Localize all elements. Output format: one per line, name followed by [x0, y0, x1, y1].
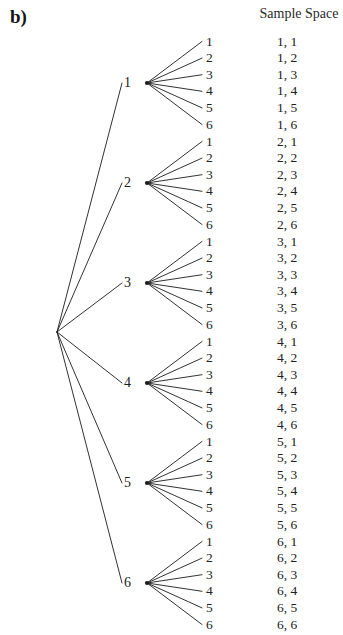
outcome-label-3-2: 3, 2	[277, 251, 297, 265]
leaf-label-3-3: 3	[206, 268, 220, 282]
leaf-label-4-3: 3	[206, 368, 220, 382]
leaf-label-1-6: 6	[206, 118, 220, 132]
branch-node-6	[145, 581, 149, 585]
leaf-label-5-4: 4	[206, 484, 220, 498]
leaf-label-1-5: 5	[206, 101, 220, 115]
outcome-label-3-3: 3, 3	[277, 268, 297, 282]
outcome-label-1-1: 1, 1	[277, 35, 297, 49]
outcome-label-6-3: 6, 3	[277, 568, 297, 582]
leaf-label-3-1: 1	[206, 235, 220, 249]
leaf-label-5-1: 1	[206, 435, 220, 449]
branch-node-3	[145, 281, 149, 285]
stage-label-3: 3	[117, 276, 131, 290]
outcome-label-5-4: 5, 4	[277, 484, 297, 498]
leaf-label-6-5: 5	[206, 601, 220, 615]
leaf-label-4-4: 4	[206, 384, 220, 398]
trunk-line-4	[57, 332, 122, 383]
outcome-label-4-5: 4, 5	[277, 401, 297, 415]
leaf-label-6-2: 2	[206, 551, 220, 565]
outcome-label-3-5: 3, 5	[277, 301, 297, 315]
leaf-label-6-6: 6	[206, 618, 220, 632]
leaf-label-1-3: 3	[206, 68, 220, 82]
outcome-label-4-6: 4, 6	[277, 418, 297, 432]
leaf-label-1-4: 4	[206, 84, 220, 98]
leaf-label-2-6: 6	[206, 218, 220, 232]
leaf-label-6-4: 4	[206, 584, 220, 598]
outcome-label-1-6: 1, 6	[277, 118, 297, 132]
outcome-label-3-6: 3, 6	[277, 318, 297, 332]
outcome-label-1-3: 1, 3	[277, 68, 297, 82]
outcome-label-5-6: 5, 6	[277, 518, 297, 532]
outcome-label-3-4: 3, 4	[277, 284, 297, 298]
stage-label-4: 4	[117, 376, 131, 390]
outcome-label-5-1: 5, 1	[277, 435, 297, 449]
outcome-label-2-6: 2, 6	[277, 218, 297, 232]
outcome-label-4-1: 4, 1	[277, 335, 297, 349]
leaf-label-5-3: 3	[206, 468, 220, 482]
outcome-label-2-5: 2, 5	[277, 201, 297, 215]
branch-node-5	[145, 481, 149, 485]
leaf-label-3-2: 2	[206, 251, 220, 265]
outcome-label-6-5: 6, 5	[277, 601, 297, 615]
outcome-label-2-3: 2, 3	[277, 168, 297, 182]
outcome-label-3-1: 3, 1	[277, 235, 297, 249]
outcome-label-2-4: 2, 4	[277, 184, 297, 198]
outcome-label-6-1: 6, 1	[277, 535, 297, 549]
outcome-label-2-2: 2, 2	[277, 151, 297, 165]
trunk-line-1	[57, 83, 122, 332]
leaf-label-2-3: 3	[206, 168, 220, 182]
tree-diagram-figure: b) Sample Space 111, 121, 231, 341, 451,…	[0, 0, 343, 635]
leaf-label-3-4: 4	[206, 284, 220, 298]
leaf-label-3-6: 6	[206, 318, 220, 332]
branch-node-4	[145, 381, 149, 385]
outcome-label-5-5: 5, 5	[277, 501, 297, 515]
outcome-label-1-2: 1, 2	[277, 51, 297, 65]
outcome-label-4-3: 4, 3	[277, 368, 297, 382]
leaf-label-2-4: 4	[206, 184, 220, 198]
stage-label-1: 1	[117, 76, 131, 90]
leaf-label-6-3: 3	[206, 568, 220, 582]
leaf-label-2-1: 1	[206, 135, 220, 149]
leaf-label-1-2: 2	[206, 51, 220, 65]
leaf-label-4-2: 2	[206, 351, 220, 365]
leaf-label-1-1: 1	[206, 35, 220, 49]
stage-label-2: 2	[117, 176, 131, 190]
leaf-label-4-1: 1	[206, 335, 220, 349]
trunk-line-5	[57, 332, 122, 483]
leaf-label-6-1: 1	[206, 535, 220, 549]
leaf-label-4-5: 5	[206, 401, 220, 415]
outcome-label-1-5: 1, 5	[277, 101, 297, 115]
trunk-lines	[57, 83, 122, 583]
outcome-label-2-1: 2, 1	[277, 135, 297, 149]
outcome-label-6-2: 6, 2	[277, 551, 297, 565]
trunk-line-6	[57, 332, 122, 583]
outcome-label-1-4: 1, 4	[277, 84, 297, 98]
branch-node-2	[145, 181, 149, 185]
trunk-line-2	[57, 183, 122, 332]
leaf-label-2-5: 5	[206, 201, 220, 215]
leaf-label-5-5: 5	[206, 501, 220, 515]
outcome-label-4-2: 4, 2	[277, 351, 297, 365]
outcome-label-5-2: 5, 2	[277, 451, 297, 465]
branch-nodes	[145, 81, 149, 585]
outcome-label-5-3: 5, 3	[277, 468, 297, 482]
outcome-label-6-6: 6, 6	[277, 618, 297, 632]
trunk-line-3	[57, 283, 122, 332]
outcome-label-6-4: 6, 4	[277, 584, 297, 598]
branch-node-1	[145, 81, 149, 85]
leaf-label-5-2: 2	[206, 451, 220, 465]
leaf-label-5-6: 6	[206, 518, 220, 532]
stage-label-5: 5	[117, 476, 131, 490]
leaf-label-2-2: 2	[206, 151, 220, 165]
branch-lines	[147, 42, 202, 625]
outcome-label-4-4: 4, 4	[277, 384, 297, 398]
stage-label-6: 6	[117, 576, 131, 590]
leaf-label-3-5: 5	[206, 301, 220, 315]
leaf-label-4-6: 6	[206, 418, 220, 432]
